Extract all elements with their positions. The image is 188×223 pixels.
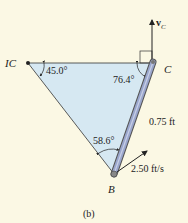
angle-b-label: 58.6° <box>93 136 115 146</box>
ic-label: IC <box>5 58 16 69</box>
pin-b <box>111 171 117 177</box>
c-label: C <box>164 64 171 75</box>
angle-c-label: 76.4° <box>113 75 135 85</box>
figure-caption: (b) <box>83 209 95 219</box>
b-label: B <box>108 184 115 195</box>
angle-ic-label: 45.0° <box>46 66 68 76</box>
length-label: 0.75 ft <box>149 117 175 127</box>
vb-label: 2.50 ft/s <box>131 164 164 174</box>
pin-c <box>151 60 155 64</box>
vc-label: vC <box>156 18 166 31</box>
ic-point <box>26 61 30 65</box>
kinematics-diagram <box>0 0 188 223</box>
